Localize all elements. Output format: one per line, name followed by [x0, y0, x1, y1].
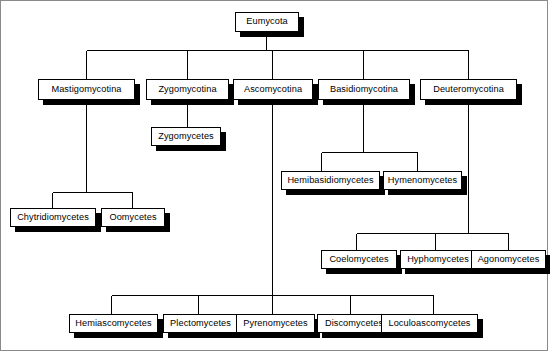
node-label: Agonomycetes: [478, 255, 540, 264]
node-hemibasidiomycetes[interactable]: Hemibasidiomycetes: [281, 171, 380, 190]
node-deuteromycotina[interactable]: Deuteromycotina: [420, 79, 517, 100]
node-label: Plectomycetes: [170, 319, 231, 328]
node-zygomycetes[interactable]: Zygomycetes: [151, 127, 221, 146]
node-label: Mastigomycotina: [51, 85, 121, 94]
node-agonomycetes[interactable]: Agonomycetes: [471, 250, 546, 269]
node-label: Hemibasidiomycetes: [287, 176, 373, 185]
node-label: Loculoascomycetes: [388, 319, 470, 328]
node-eumycota[interactable]: Eumycota: [235, 12, 299, 32]
node-zygomycotina[interactable]: Zygomycotina: [146, 79, 229, 100]
node-label: Oomycetes: [109, 213, 156, 222]
node-oomycetes[interactable]: Oomycetes: [101, 208, 165, 227]
node-label: Basidiomycotina: [330, 85, 398, 94]
node-label: Discomycetes: [325, 319, 383, 328]
node-hymenomycetes[interactable]: Hymenomycetes: [383, 171, 462, 190]
node-discomycetes[interactable]: Discomycetes: [317, 314, 391, 333]
node-chytridiomycetes[interactable]: Chytridiomycetes: [10, 208, 96, 227]
taxonomy-diagram: EumycotaMastigomycotinaZygomycotinaAscom…: [0, 0, 550, 353]
node-hyphomycetes[interactable]: Hyphomycetes: [400, 250, 476, 269]
node-label: Coelomycetes: [329, 255, 388, 264]
node-loculoascomycetes[interactable]: Loculoascomycetes: [381, 314, 478, 333]
node-pyrenomycetes[interactable]: Pyrenomycetes: [236, 314, 315, 333]
node-label: Eumycota: [246, 17, 288, 26]
node-label: Pyrenomycetes: [243, 319, 307, 328]
node-plectomycetes[interactable]: Plectomycetes: [163, 314, 238, 333]
node-label: Ascomycotina: [244, 85, 302, 94]
node-label: Hemiascomycetes: [75, 319, 151, 328]
node-mastigomycotina[interactable]: Mastigomycotina: [38, 79, 135, 100]
node-ascomycotina[interactable]: Ascomycotina: [233, 79, 313, 100]
node-label: Deuteromycotina: [433, 85, 504, 94]
node-label: Hymenomycetes: [388, 176, 457, 185]
node-label: Zygomycetes: [158, 132, 214, 141]
node-hemiascomycetes[interactable]: Hemiascomycetes: [69, 314, 158, 333]
node-basidiomycotina[interactable]: Basidiomycotina: [318, 79, 410, 100]
node-coelomycetes[interactable]: Coelomycetes: [321, 250, 397, 269]
connector-lines: [0, 0, 550, 353]
node-label: Zygomycotina: [158, 85, 216, 94]
node-label: Hyphomycetes: [407, 255, 469, 264]
node-label: Chytridiomycetes: [17, 213, 89, 222]
